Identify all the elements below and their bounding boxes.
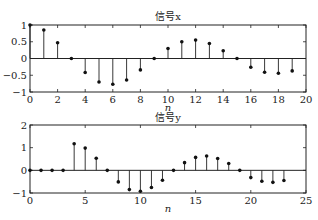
stem-marker — [271, 181, 275, 185]
stem-marker — [97, 80, 101, 84]
y-tick-label: −1 — [12, 188, 27, 199]
stem-marker — [216, 157, 220, 161]
stem-marker — [205, 154, 209, 158]
stem-marker — [56, 41, 60, 45]
y-tick-label: 1 — [21, 142, 27, 153]
stem-marker — [249, 65, 253, 69]
stem-marker — [128, 188, 132, 192]
stem-marker — [111, 82, 115, 86]
x-tick-label: 12 — [189, 94, 202, 105]
x-tick-label: 15 — [189, 195, 202, 206]
stem-marker — [105, 169, 109, 173]
stem-marker — [28, 23, 32, 27]
y-tick-label: 2 — [21, 120, 27, 131]
stem-marker — [150, 186, 154, 190]
stem-marker — [139, 68, 143, 72]
stem-marker — [172, 169, 176, 173]
stem-marker — [70, 57, 74, 61]
stem-marker — [208, 42, 212, 46]
x-tick-label: 5 — [82, 195, 88, 206]
x-tick-label: 20 — [300, 94, 313, 105]
stem-marker — [194, 38, 198, 42]
stem-marker — [83, 71, 87, 75]
stem-marker — [83, 146, 87, 150]
stem-marker — [194, 156, 198, 160]
x-tick-label: 14 — [217, 94, 230, 105]
stem-marker — [260, 179, 264, 183]
stem-marker — [117, 180, 121, 184]
stem-marker — [235, 57, 239, 61]
x-axis-label: n — [165, 203, 171, 214]
x-tick-label: 25 — [300, 195, 313, 206]
subplot-2: 0510152025−1012信号yn — [12, 112, 312, 214]
y-tick-label: −0.5 — [3, 70, 27, 81]
figure: 02468101214161820−1−0.500.51信号xn05101520… — [0, 0, 318, 220]
x-tick-label: 20 — [244, 195, 257, 206]
subplot-title: 信号y — [155, 112, 181, 123]
stem-marker — [161, 179, 165, 183]
stem-marker — [39, 169, 43, 173]
stem-marker — [50, 169, 54, 173]
stem-marker — [61, 169, 65, 173]
stem-marker — [94, 157, 98, 161]
stem-marker — [166, 47, 170, 51]
stem-marker — [290, 69, 294, 73]
subplot-1: 02468101214161820−1−0.500.51信号xn — [3, 11, 313, 113]
x-tick-label: 0 — [27, 94, 33, 105]
x-tick-label: 4 — [82, 94, 88, 105]
stem-marker — [180, 40, 184, 44]
x-tick-label: 18 — [272, 94, 285, 105]
y-tick-label: 1 — [21, 20, 27, 31]
y-tick-label: −1 — [12, 87, 27, 98]
x-tick-label: 6 — [110, 94, 116, 105]
y-tick-label: 0 — [21, 53, 27, 64]
stem-marker — [221, 49, 225, 53]
x-tick-label: 8 — [137, 94, 143, 105]
y-tick-label: 0 — [21, 165, 27, 176]
stem-marker — [72, 142, 76, 146]
stem-marker — [183, 161, 187, 165]
stem-marker — [227, 162, 231, 166]
x-tick-label: 16 — [244, 94, 257, 105]
x-tick-label: 0 — [27, 195, 33, 206]
stem-marker — [125, 78, 129, 82]
x-tick-label: 2 — [54, 94, 60, 105]
axes-box — [30, 125, 306, 193]
x-tick-label: 10 — [134, 195, 147, 206]
stem-marker — [139, 189, 143, 193]
stem-marker — [277, 71, 281, 75]
subplot-title: 信号x — [155, 11, 181, 22]
stem-marker — [263, 70, 267, 74]
stem-marker — [28, 169, 32, 173]
y-tick-label: 0.5 — [11, 36, 27, 47]
stem-marker — [238, 169, 242, 173]
stem-marker — [42, 28, 46, 32]
stem-marker — [152, 57, 156, 61]
stem-marker — [249, 176, 253, 180]
stem-marker — [282, 179, 286, 183]
